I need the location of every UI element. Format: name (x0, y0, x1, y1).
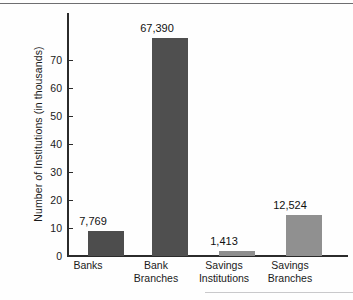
bar-value-banks: 7,769 (63, 215, 123, 227)
x-category-label-savings-branches: Savings Branches (259, 259, 321, 284)
bar-savings-branches[interactable] (286, 215, 322, 256)
x-category-line: Institutions (190, 272, 258, 285)
y-tick-label-60: 60 (28, 82, 62, 94)
page-rule-top (0, 3, 353, 4)
bar-savings-institutions[interactable] (219, 251, 255, 256)
y-tick-label-70: 70 (28, 54, 62, 66)
bar-chart-figure: Number of Institutions (in thousands) 0 … (0, 0, 353, 300)
y-tick-label-0: 0 (28, 250, 62, 262)
bar-value-savings-institutions: 1,413 (194, 235, 254, 247)
x-category-line: Branches (259, 272, 321, 285)
x-category-label-banks: Banks (58, 259, 118, 272)
y-tick-label-20: 20 (28, 194, 62, 206)
y-tick-label-30: 30 (28, 166, 62, 178)
bar-bank-branches[interactable] (152, 38, 188, 256)
y-tick-label-10: 10 (28, 222, 62, 234)
y-tick-label-50: 50 (28, 110, 62, 122)
x-category-line: Savings (190, 259, 258, 272)
bar-value-bank-branches: 67,390 (126, 22, 188, 34)
x-category-line: Banks (58, 259, 118, 272)
bar-banks[interactable] (88, 231, 124, 256)
x-category-line: Branches (125, 272, 187, 285)
x-category-label-savings-institutions: Savings Institutions (190, 259, 258, 284)
y-tick-0 (67, 256, 73, 257)
x-category-line: Savings (259, 259, 321, 272)
bar-value-savings-branches: 12,524 (259, 199, 321, 211)
x-category-line: Bank (125, 259, 187, 272)
page-rule-bottom (205, 292, 353, 293)
y-tick-label-40: 40 (28, 138, 62, 150)
x-category-label-bank-branches: Bank Branches (125, 259, 187, 284)
